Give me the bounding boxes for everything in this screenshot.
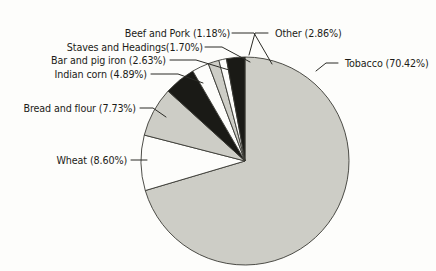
slice-label-other: Other (2.86%)	[275, 29, 342, 39]
pie-chart-figure: Beef and Pork (1.18%) Staves and Heading…	[0, 0, 436, 271]
slice-label-wheat: Wheat (8.60%)	[27, 156, 127, 166]
slice-label-beef-and-pork: Beef and Pork (1.18%)	[60, 29, 230, 39]
slice-label-tobacco: Tobacco (70.42%)	[345, 59, 429, 69]
slice-label-bread-and-flour: Bread and flour (7.73%)	[8, 104, 136, 114]
slice-label-indian-corn: Indian corn (4.89%)	[18, 70, 147, 80]
slice-label-staves-and-headings: Staves and Headings(1.70%)	[28, 43, 203, 53]
slice-label-bar-and-pig-iron: Bar and pig iron (2.63%)	[20, 56, 166, 66]
pie-chart-svg	[0, 0, 436, 271]
leader-line-tobacco	[316, 63, 338, 71]
pie-slices-group	[141, 57, 349, 265]
